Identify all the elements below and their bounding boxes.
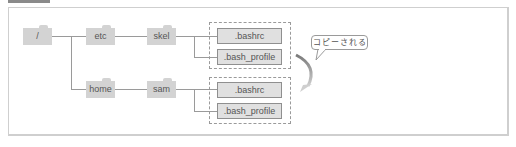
callout-tail-mask-icon [0,0,516,147]
